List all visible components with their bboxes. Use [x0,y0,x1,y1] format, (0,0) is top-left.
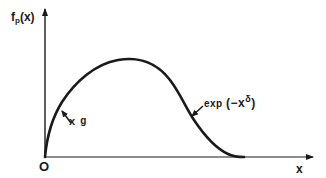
exp-close-paren: ) [251,96,256,110]
power-law-base: x [69,115,76,127]
exp-decay-annotation: exp (−xδ) [204,95,256,109]
x-axis-label: x [296,163,303,175]
power-law-annotation: x g [69,116,87,127]
y-label-arg: (x) [20,10,35,24]
power-law-exponent: g [80,115,87,126]
exp-func-name: exp [204,98,223,109]
density-diagram: fp(x) x O x g exp (−xδ) [0,0,326,178]
exp-base: −x [231,96,246,110]
plot-canvas [0,0,326,178]
origin-label: O [39,160,49,173]
y-axis-label: fp(x) [11,11,35,25]
right-annotation-arrow [192,106,203,116]
